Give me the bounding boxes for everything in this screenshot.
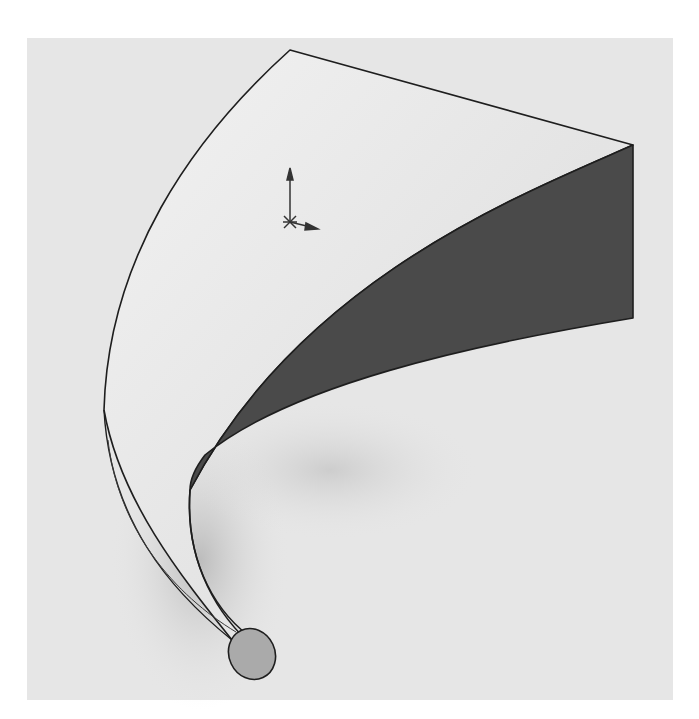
cad-model-scene[interactable] xyxy=(0,0,699,719)
